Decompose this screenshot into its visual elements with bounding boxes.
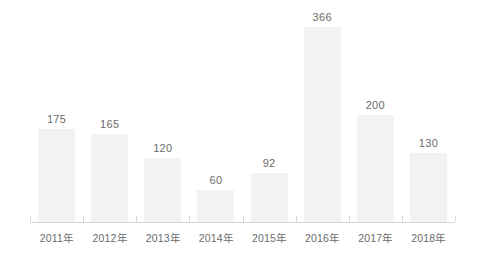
bar[interactable] (38, 129, 75, 222)
bar-group-2: 120 (136, 0, 189, 222)
x-axis-labels: 2011年 2012年 2013年 2014年 2015年 2016年 2017… (30, 231, 455, 249)
bar[interactable] (304, 27, 341, 222)
axis-tick (349, 216, 350, 222)
bar-value-label: 165 (83, 118, 136, 131)
axis-tick (455, 216, 456, 222)
axis-tick (189, 216, 190, 222)
x-axis-tick-label: 2013年 (136, 231, 189, 245)
bar-value-label: 200 (349, 99, 402, 112)
bar-group-6: 200 (349, 0, 402, 222)
bar-value-label: 92 (243, 157, 296, 170)
axis-tick (136, 216, 137, 222)
bar[interactable] (197, 190, 234, 222)
bar[interactable] (91, 134, 128, 222)
bar-chart: 175 165 120 60 92 366 (0, 0, 481, 259)
bar[interactable] (144, 158, 181, 222)
bars-layer: 175 165 120 60 92 366 (30, 0, 455, 222)
x-axis-tick-label: 2011年 (30, 231, 83, 245)
bar-group-4: 92 (243, 0, 296, 222)
x-axis-tick-label: 2017年 (349, 231, 402, 245)
bar-group-5: 366 (296, 0, 349, 222)
bar-value-label: 120 (136, 142, 189, 155)
x-axis-tick-label: 2015年 (243, 231, 296, 245)
bar[interactable] (357, 115, 394, 222)
x-axis-tick-label: 2014年 (189, 231, 242, 245)
axis-tick (243, 216, 244, 222)
axis-tick (402, 216, 403, 222)
x-axis-line (30, 222, 455, 223)
bar-value-label: 60 (189, 174, 242, 187)
bar[interactable] (251, 173, 288, 222)
axis-tick (30, 216, 31, 222)
x-axis-tick-label: 2018年 (402, 231, 455, 245)
axis-tick (296, 216, 297, 222)
axis-tick (83, 216, 84, 222)
x-axis-tick-label: 2016年 (296, 231, 349, 245)
bar-value-label: 366 (296, 11, 349, 24)
bar-value-label: 130 (402, 137, 455, 150)
bar[interactable] (410, 153, 447, 222)
bar-group-1: 165 (83, 0, 136, 222)
bar-group-7: 130 (402, 0, 455, 222)
plot-area: 175 165 120 60 92 366 (0, 0, 481, 259)
bar-group-0: 175 (30, 0, 83, 222)
bar-value-label: 175 (30, 113, 83, 126)
x-axis-tick-label: 2012年 (83, 231, 136, 245)
bar-group-3: 60 (189, 0, 242, 222)
